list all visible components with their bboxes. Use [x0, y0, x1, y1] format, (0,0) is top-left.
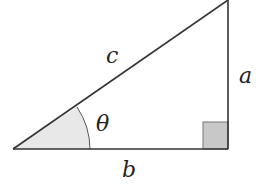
- angle-theta-sector: [13, 107, 90, 149]
- label-c: c: [106, 43, 118, 68]
- label-a: a: [239, 63, 252, 88]
- side-c-hypotenuse: [13, 0, 228, 149]
- label-b: b: [122, 157, 136, 182]
- right-angle-marker: [203, 122, 228, 149]
- right-triangle-diagram: c a b θ: [0, 0, 270, 190]
- label-theta: θ: [96, 111, 109, 136]
